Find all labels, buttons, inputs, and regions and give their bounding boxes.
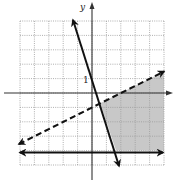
y-axis-label: y: [79, 2, 86, 12]
y-tick-label-1: 1: [83, 75, 89, 85]
coordinate-graph: y 1: [0, 0, 174, 186]
x-axis-arrow-icon: [166, 91, 173, 96]
y-axis-arrow-icon: [90, 2, 95, 9]
